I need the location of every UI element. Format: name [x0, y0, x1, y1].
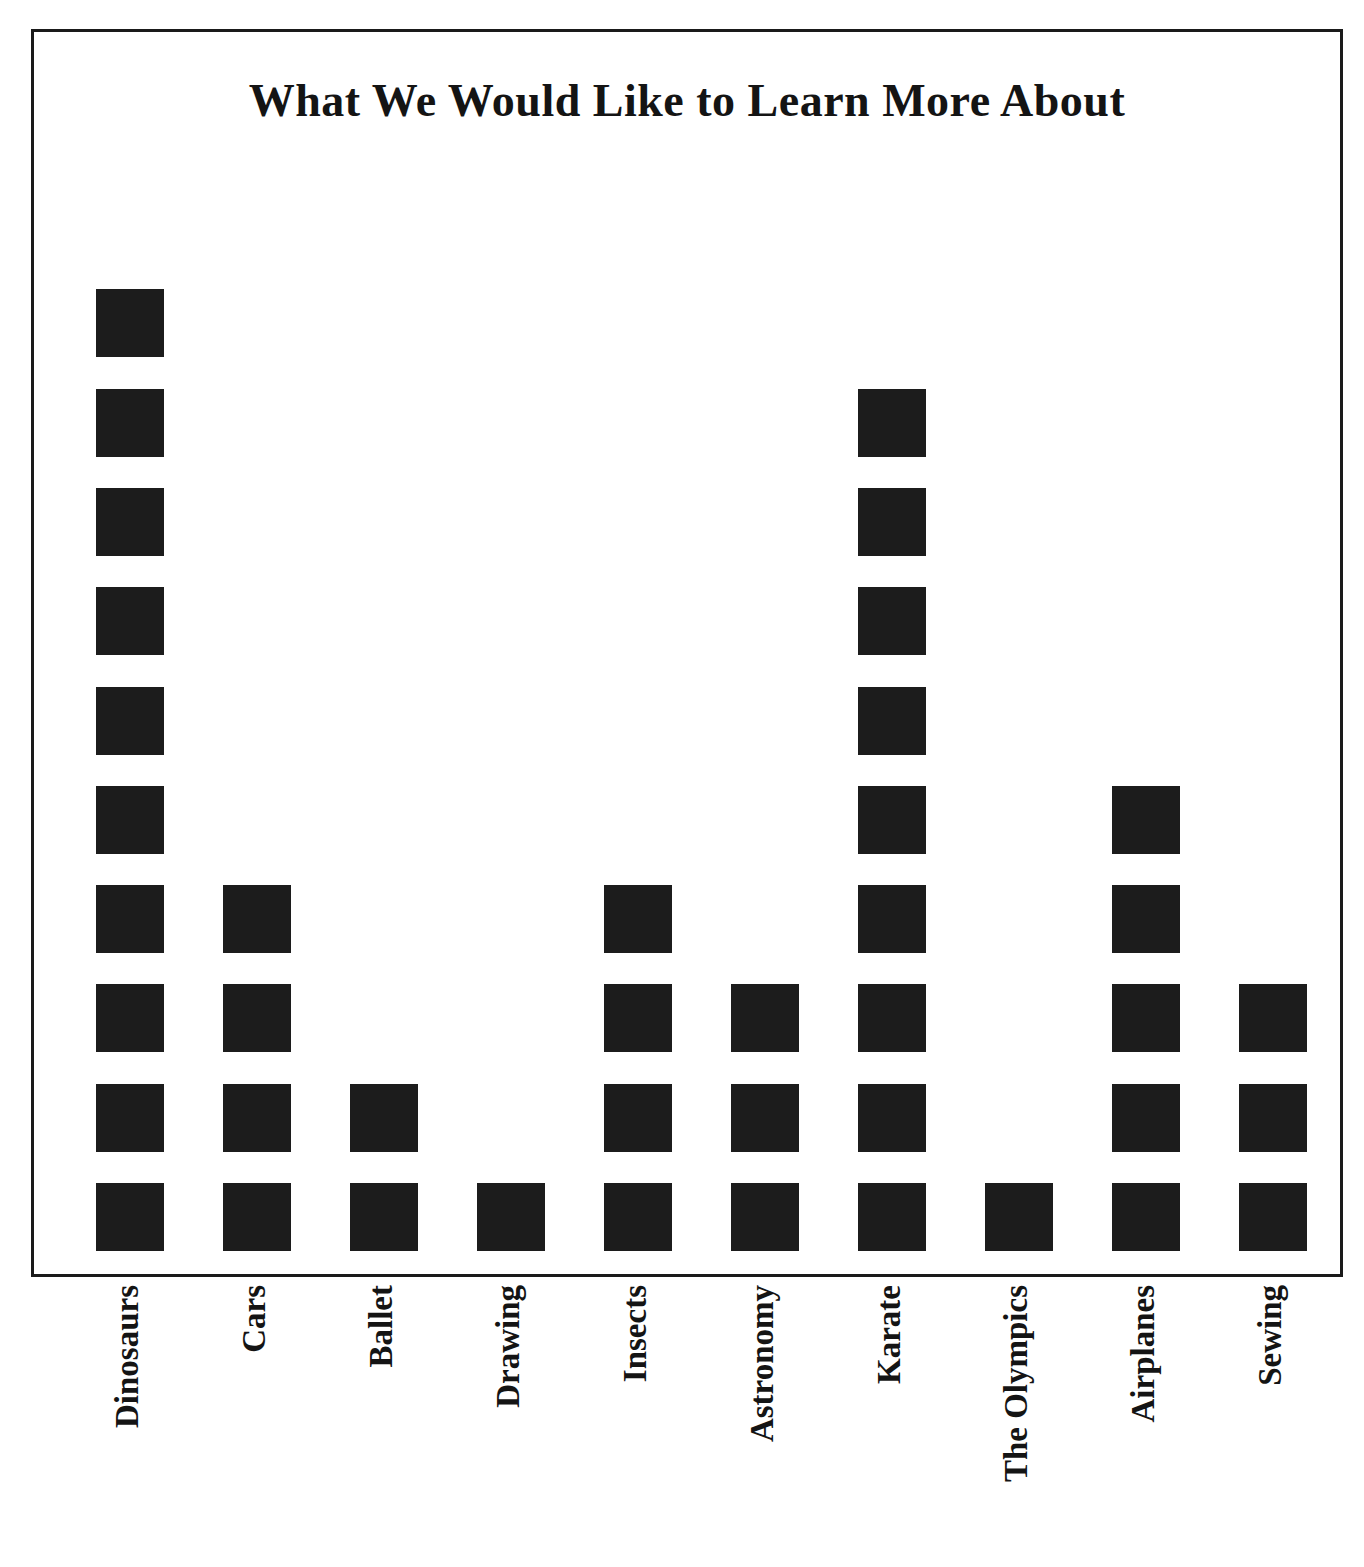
pictograph-symbol-square [96, 885, 164, 953]
pictograph-symbol-square [96, 1084, 164, 1152]
x-axis-label-slot: Sewing [1236, 1285, 1304, 1555]
chart-frame: What We Would Like to Learn More About [31, 29, 1343, 1277]
pictograph-symbol-square [96, 488, 164, 556]
pictograph-symbol-square [1112, 1183, 1180, 1251]
pictograph-symbol-square [858, 786, 926, 854]
pictograph-symbol-square [223, 984, 291, 1052]
x-axis-label: Dinosaurs [111, 1285, 144, 1428]
pictograph-plot-area [34, 32, 1340, 1274]
x-axis-label: Ballet [365, 1285, 398, 1367]
pictograph-symbol-square [858, 687, 926, 755]
pictograph-symbol-square [731, 1183, 799, 1251]
pictograph-symbol-square [858, 1084, 926, 1152]
pictograph-symbol-square [858, 587, 926, 655]
x-axis-label: Sewing [1254, 1285, 1287, 1386]
x-axis-label: The Olympics [1000, 1285, 1033, 1482]
x-axis-labels: DinosaursCarsBalletDrawingInsectsAstrono… [31, 1285, 1343, 1555]
pictograph-symbol-square [1239, 984, 1307, 1052]
x-axis-label-slot: Insects [601, 1285, 669, 1555]
pictograph-symbol-square [223, 1084, 291, 1152]
pictograph-symbol-square [858, 389, 926, 457]
pictograph-symbol-square [1112, 984, 1180, 1052]
pictograph-symbol-square [96, 389, 164, 457]
pictograph-symbol-square [858, 488, 926, 556]
pictograph-column [858, 289, 926, 1274]
pictograph-symbol-square [96, 786, 164, 854]
pictograph-column [604, 289, 672, 1274]
pictograph-column [731, 289, 799, 1274]
pictograph-symbol-square [96, 984, 164, 1052]
x-axis-label: Astronomy [746, 1285, 779, 1442]
pictograph-column [96, 289, 164, 1274]
x-axis-label: Insects [619, 1285, 652, 1382]
pictograph-symbol-square [96, 289, 164, 357]
x-axis-label: Cars [238, 1285, 271, 1353]
pictograph-symbol-square [985, 1183, 1053, 1251]
x-axis-label-slot: Karate [855, 1285, 923, 1555]
pictograph-symbol-square [731, 984, 799, 1052]
pictograph-symbol-square [350, 1084, 418, 1152]
pictograph-symbol-square [731, 1084, 799, 1152]
pictograph-symbol-square [604, 1183, 672, 1251]
pictograph-symbol-square [96, 587, 164, 655]
pictograph-symbol-square [604, 984, 672, 1052]
pictograph-symbol-square [858, 1183, 926, 1251]
x-axis-label-slot: Airplanes [1109, 1285, 1177, 1555]
pictograph-column [223, 289, 291, 1274]
pictograph-symbol-square [1112, 885, 1180, 953]
pictograph-column [1112, 289, 1180, 1274]
pictograph-symbol-square [604, 885, 672, 953]
pictograph-column [985, 289, 1053, 1274]
pictograph-column [350, 289, 418, 1274]
pictograph-symbol-square [223, 885, 291, 953]
pictograph-symbol-square [1112, 1084, 1180, 1152]
pictograph-symbol-square [1112, 786, 1180, 854]
pictograph-symbol-square [477, 1183, 545, 1251]
pictograph-symbol-square [604, 1084, 672, 1152]
x-axis-label: Drawing [492, 1285, 525, 1408]
pictograph-symbol-square [858, 984, 926, 1052]
pictograph-symbol-square [350, 1183, 418, 1251]
pictograph-column [1239, 289, 1307, 1274]
pictograph-symbol-square [1239, 1084, 1307, 1152]
pictograph-symbol-square [96, 687, 164, 755]
pictograph-column [477, 289, 545, 1274]
x-axis-label-slot: Ballet [347, 1285, 415, 1555]
x-axis-label-slot: Cars [220, 1285, 288, 1555]
x-axis-label-slot: The Olympics [982, 1285, 1050, 1555]
pictograph-symbol-square [223, 1183, 291, 1251]
pictograph-symbol-square [858, 885, 926, 953]
x-axis-label-slot: Dinosaurs [93, 1285, 161, 1555]
x-axis-label: Airplanes [1127, 1285, 1160, 1423]
pictograph-symbol-square [1239, 1183, 1307, 1251]
x-axis-label-slot: Drawing [474, 1285, 542, 1555]
x-axis-label-slot: Astronomy [728, 1285, 796, 1555]
pictograph-symbol-square [96, 1183, 164, 1251]
x-axis-label: Karate [873, 1285, 906, 1384]
